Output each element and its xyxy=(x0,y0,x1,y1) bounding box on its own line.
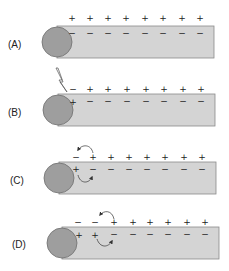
panel-label: (D) xyxy=(12,239,26,250)
charge-symbol: − xyxy=(143,164,151,174)
charge-symbol: − xyxy=(178,28,186,38)
charge-symbol: − xyxy=(91,217,99,227)
charge-symbol: − xyxy=(164,229,172,239)
soma xyxy=(47,228,77,258)
charge-symbol: + xyxy=(164,217,172,227)
charge-symbol: + xyxy=(122,13,130,23)
charge-symbol: − xyxy=(197,96,205,106)
charge-symbol: − xyxy=(107,164,115,174)
charge-symbol: − xyxy=(86,96,94,106)
charge-symbol: + xyxy=(86,84,94,94)
charge-symbol: − xyxy=(125,164,133,174)
charge-symbol: + xyxy=(196,13,204,23)
charge-symbol: − xyxy=(141,28,149,38)
charge-symbol: + xyxy=(160,84,168,94)
charge-symbol: − xyxy=(201,229,209,239)
charge-symbol: + xyxy=(179,84,187,94)
charge-symbol: + xyxy=(198,152,206,162)
charge-symbol: + xyxy=(68,13,76,23)
charge-symbol: − xyxy=(69,84,77,94)
charge-symbol: − xyxy=(123,96,131,106)
charge-symbol: − xyxy=(183,229,191,239)
panel-b: (B) − + + + + + + + + − − − − − − − xyxy=(8,68,215,126)
charge-symbol: − xyxy=(72,152,80,162)
axon xyxy=(58,94,215,126)
charge-symbol: + xyxy=(142,84,150,94)
charge-symbol: + xyxy=(183,217,191,227)
panel-c: (C) − + + + + + + + + − − − − − − − xyxy=(10,146,216,194)
charge-symbol: − xyxy=(179,96,187,106)
charge-symbol: + xyxy=(72,164,80,174)
charge-symbol: + xyxy=(104,84,112,94)
charge-symbol: − xyxy=(129,229,137,239)
panel-label: (A) xyxy=(8,39,21,50)
panel-label: (C) xyxy=(10,175,24,186)
charge-symbol: + xyxy=(125,152,133,162)
charge-symbol: − xyxy=(68,28,76,38)
charge-symbol: + xyxy=(129,217,137,227)
charge-symbol: + xyxy=(143,152,151,162)
axon xyxy=(62,227,219,259)
charge-symbol: + xyxy=(107,152,115,162)
soma xyxy=(44,163,74,193)
charge-symbol: + xyxy=(201,217,209,227)
axon xyxy=(59,162,216,194)
charge-symbol: − xyxy=(110,229,118,239)
charge-symbol: − xyxy=(196,28,204,38)
charge-symbol: + xyxy=(104,13,112,23)
panel-d: (D) − − + + + + + + + + − − − − − − xyxy=(12,212,219,259)
charge-symbol: + xyxy=(141,13,149,23)
axon xyxy=(57,26,214,58)
charge-symbol: + xyxy=(75,230,83,240)
charge-symbol: − xyxy=(198,164,206,174)
charge-symbol: − xyxy=(161,164,169,174)
charge-symbol: − xyxy=(146,229,154,239)
charge-symbol: − xyxy=(159,28,167,38)
stimulus-lightning-icon xyxy=(56,68,67,92)
panel-a: (A) + + + + + + + + − − − − − − − − xyxy=(8,13,214,58)
panel-label: (B) xyxy=(8,107,21,118)
outside-charges: − + + + + + + + xyxy=(72,152,206,162)
charge-symbol: − xyxy=(104,28,112,38)
outside-charges: − − + + + + + + xyxy=(74,217,209,227)
outside-charges: − + + + + + + + xyxy=(69,84,205,94)
charge-symbol: − xyxy=(86,28,94,38)
charge-symbol: + xyxy=(161,152,169,162)
charge-symbol: + xyxy=(69,97,77,107)
charge-symbol: − xyxy=(160,96,168,106)
charge-symbol: + xyxy=(178,13,186,23)
charge-symbol: − xyxy=(180,164,188,174)
action-potential-propagation-diagram: (A) + + + + + + + + − − − − − − − − (B) xyxy=(0,0,229,271)
charge-symbol: − xyxy=(142,96,150,106)
charge-symbol: + xyxy=(91,230,99,240)
charge-symbol: − xyxy=(104,96,112,106)
charge-symbol: + xyxy=(89,152,97,162)
charge-symbol: + xyxy=(86,13,94,23)
charge-symbol: − xyxy=(89,164,97,174)
charge-symbol: + xyxy=(197,84,205,94)
charge-symbol: + xyxy=(123,84,131,94)
charge-symbol: + xyxy=(159,13,167,23)
outside-charges: + + + + + + + + xyxy=(68,13,204,23)
charge-symbol: − xyxy=(74,217,82,227)
charge-symbol: − xyxy=(122,28,130,38)
charge-symbol: + xyxy=(146,217,154,227)
charge-symbol: + xyxy=(180,152,188,162)
